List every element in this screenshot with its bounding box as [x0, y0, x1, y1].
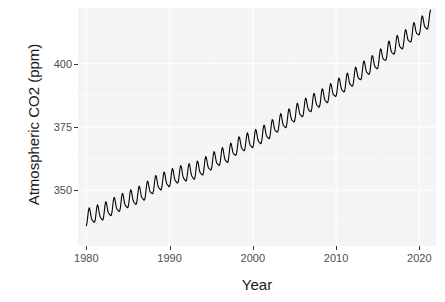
- grid-major-lines: [78, 8, 436, 246]
- x-tick-mark: [253, 246, 254, 250]
- x-tick-mark: [419, 246, 420, 250]
- y-axis-title: Atmospheric CO2 (ppm): [25, 10, 42, 240]
- x-tick-label: 2020: [407, 252, 431, 264]
- x-tick-label: 1990: [157, 252, 181, 264]
- x-axis-title: Year: [78, 276, 436, 293]
- x-tick-mark: [336, 246, 337, 250]
- x-tick-mark: [86, 246, 87, 250]
- co2-line-chart: 350375400 19801990200020102020 Atmospher…: [0, 0, 445, 302]
- x-tick-mark: [170, 246, 171, 250]
- co2-series-line: [86, 10, 430, 226]
- plot-area-svg: [78, 8, 436, 246]
- x-tick-label: 2000: [241, 252, 265, 264]
- plot-panel: [78, 8, 436, 246]
- x-tick-label: 2010: [324, 252, 348, 264]
- x-tick-label: 1980: [74, 252, 98, 264]
